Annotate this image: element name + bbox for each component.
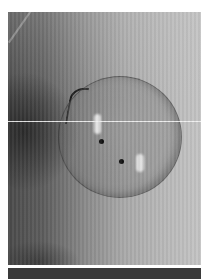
bright-spot-lower [136, 154, 144, 172]
circular-disc [58, 76, 182, 198]
dark-dot-lower [119, 159, 124, 164]
image-frame [8, 12, 201, 265]
bottom-bar [8, 268, 201, 279]
dark-dot-upper [99, 139, 104, 144]
bright-spot-upper [94, 114, 101, 134]
horizontal-scan-line [8, 121, 201, 122]
